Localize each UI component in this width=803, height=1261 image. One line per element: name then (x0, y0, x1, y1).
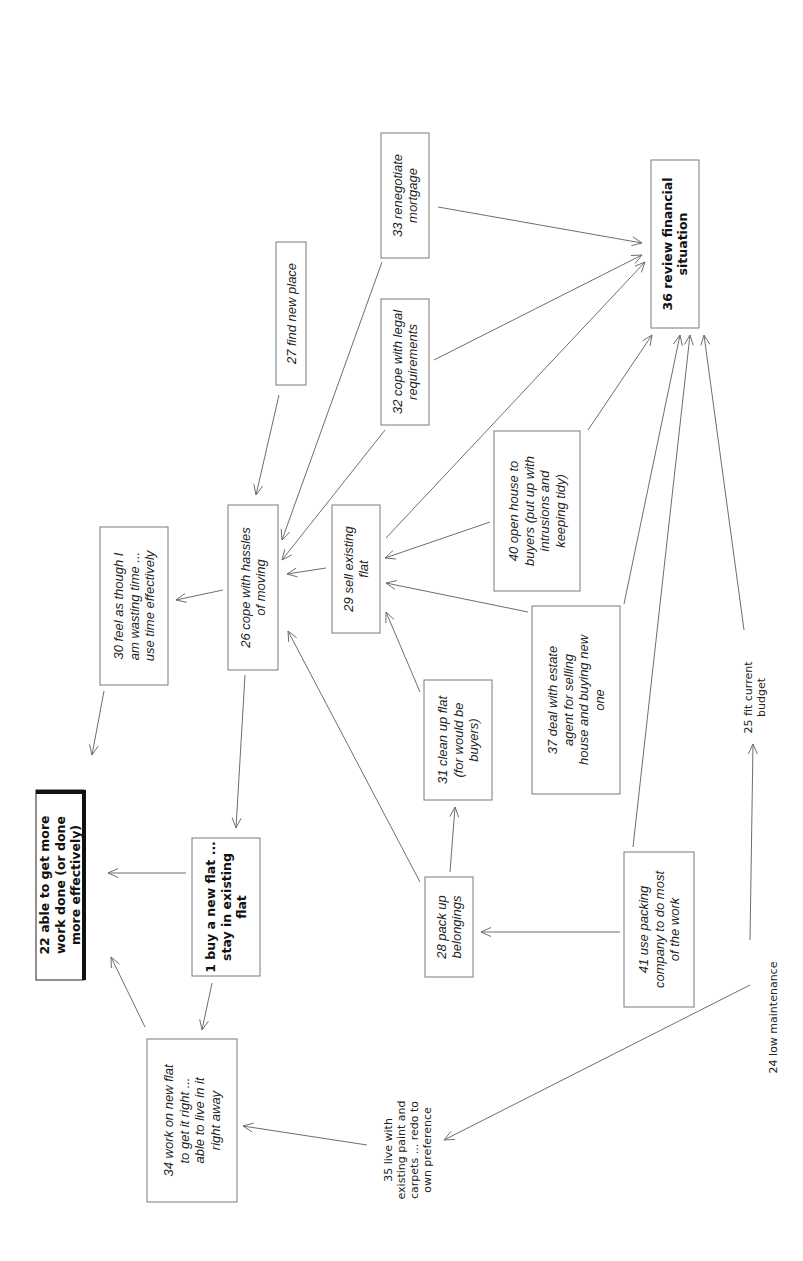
edge-41-to-36 (633, 335, 693, 847)
node-label-line: flat (356, 559, 371, 578)
node-label-line: 32 cope with legal (390, 309, 405, 414)
node-36: 36 review financialsituation (651, 160, 699, 328)
edge-25-to-36 (701, 335, 744, 630)
node-28: 28 pack upbelongings (425, 877, 473, 977)
node-label-line: 22 able to get more (37, 815, 52, 954)
edge-40-to-29 (385, 522, 490, 559)
node-label-line: 36 review financial (660, 177, 675, 310)
node-label-line: own preference (421, 1107, 434, 1193)
node-label-line: use time effectively (142, 549, 157, 661)
edge-line (386, 612, 420, 692)
edge-line (287, 568, 326, 574)
node-24: 24 low maintenance (767, 961, 780, 1073)
node-label-line: one (592, 689, 607, 711)
node-37: 37 deal with estateagent for sellinghous… (532, 606, 620, 794)
edge-1-to-22 (108, 869, 186, 878)
node-label-line: intrusions and (537, 470, 552, 552)
edge-line (750, 744, 753, 940)
node-34: 34 work on new flatto get it right ...ab… (147, 1039, 237, 1202)
node-label-line: 28 pack up (434, 895, 449, 960)
node-label-line: of moving (253, 559, 268, 616)
edge-line (633, 335, 690, 847)
edge-line (385, 522, 490, 558)
node-31: 31 clean up flat(for would bebuyers) (424, 680, 492, 800)
node-label-line: existing paint and (395, 1101, 408, 1200)
node-label-line: 34 work on new flat (161, 1063, 176, 1176)
edge-line (288, 631, 420, 882)
node-label-line: 1 buy a new flat ... (203, 841, 218, 973)
edge-37-to-36 (624, 335, 682, 604)
node-label-line: 37 deal with estate (545, 646, 560, 754)
edge-line (624, 335, 680, 604)
node-30: 30 feel as though Iam wasting time ...us… (100, 527, 168, 685)
edge-line (704, 335, 744, 630)
edge-line (243, 1126, 367, 1145)
node-label-line: requirements (405, 324, 420, 400)
node-label-line: of the work (667, 896, 682, 961)
node-label: 24 low maintenance (767, 961, 780, 1073)
edge-line (434, 255, 642, 360)
edge-line (438, 207, 642, 243)
node-label-line: (for would be (451, 702, 466, 777)
edge-line (450, 807, 455, 872)
node-label-line: 27 find new place (284, 263, 299, 365)
node-label-line: keeping tidy) (553, 474, 568, 548)
node-label-line: belongings (449, 895, 464, 958)
node-27: 27 find new place (276, 242, 306, 385)
node-32: 32 cope with legalrequirements (381, 299, 429, 425)
node-label: 25 fit currentbudget (742, 661, 768, 734)
node-label: 27 find new place (284, 263, 299, 365)
node-label-line: mortgage (405, 168, 420, 223)
node-label-line: work done (or done (53, 816, 68, 954)
edge-line (111, 957, 145, 1027)
node-22: 22 able to get morework done (or donemor… (36, 790, 84, 980)
edge-30-to-22 (89, 691, 104, 755)
edge-27-to-26 (254, 395, 279, 495)
node-label-line: 41 use packing (636, 885, 651, 973)
node-label-line: right away (208, 1089, 223, 1150)
node-label: 30 feel as though Iam wasting time ...us… (111, 549, 157, 661)
edge-line (236, 675, 245, 828)
node-40: 40 open house tobuyers (put up withintru… (494, 431, 580, 591)
node-label-line: to get it right ... (177, 1078, 192, 1164)
node-label-line: agent for selling (561, 653, 576, 746)
edge-line (444, 985, 750, 1140)
node-label-line: 29 sell existing (341, 526, 356, 613)
edge-line (92, 691, 104, 755)
node-label-line: buyers (put up with (522, 456, 537, 566)
edge-35-to-34 (243, 1123, 367, 1145)
node-label-line: buyers) (466, 718, 481, 761)
edge-line (256, 395, 279, 495)
node-label-line: flat (234, 895, 249, 919)
node-1: 1 buy a new flat ...stay in existingflat (192, 838, 260, 976)
node-label-line: stay in existing (219, 853, 234, 961)
node-label-line: 35 live with (382, 1118, 395, 1182)
node-label-line: house and buying new (576, 633, 591, 765)
node-label-line: 26 cope with hassles (238, 527, 253, 649)
edge-28-to-31 (450, 807, 459, 872)
edge-line (588, 335, 652, 430)
node-label-line: carpets ... redo to (408, 1101, 421, 1199)
node-label: 28 pack upbelongings (434, 895, 465, 960)
node-29: 29 sell existingflat (332, 505, 380, 633)
node-label-line: able to live in it (192, 1076, 207, 1163)
edge-34-to-22 (111, 957, 145, 1027)
node-label-line: company to do most (652, 870, 667, 988)
node-label-line: 33 renegotiate (390, 154, 405, 237)
node-label-line: situation (675, 213, 690, 276)
node-label: 32 cope with legalrequirements (390, 309, 421, 414)
node-label-line: budget (755, 677, 768, 717)
node-33: 33 renegotiatemortgage (381, 133, 429, 258)
node-label-line: 25 fit current (742, 661, 755, 734)
node-26: 26 cope with hasslesof moving (228, 505, 278, 670)
node-label-line: 30 feel as though I (111, 552, 126, 659)
edge-24-to-25 (748, 744, 757, 940)
node-label-line: 24 low maintenance (767, 961, 780, 1073)
nodes-layer: 22 able to get morework done (or donemor… (36, 133, 780, 1202)
node-label-line: 31 clean up flat (435, 695, 450, 785)
node-25: 25 fit currentbudget (742, 661, 768, 734)
node-label-line: am wasting time ... (127, 552, 142, 660)
edge-26-to-30 (176, 590, 223, 602)
edge-26-to-1 (232, 675, 245, 828)
edge-40-to-36 (588, 335, 652, 430)
